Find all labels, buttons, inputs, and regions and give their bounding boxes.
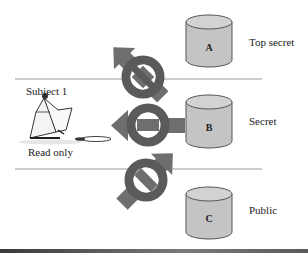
object-cylinder-b: B: [186, 95, 232, 148]
object-label-c: C: [205, 213, 212, 224]
object-cylinder-c: C: [186, 187, 232, 239]
bottom-border: [0, 249, 308, 253]
subject-mode: Read only: [28, 146, 73, 158]
object-label-b: B: [206, 122, 213, 133]
level-label-secret: Secret: [249, 115, 276, 127]
object-cylinder-a: A: [186, 15, 232, 67]
subject-reader-icon: [18, 93, 111, 145]
level-label-public: Public: [249, 204, 277, 216]
read-allowed-public: [111, 143, 183, 215]
subject-name: Subject 1: [26, 85, 67, 97]
arrow-head-icon: [111, 110, 128, 141]
level-label-top-secret: Top secret: [249, 36, 294, 48]
read-allowed-secret: [111, 108, 185, 142]
read-denied-top-secret: [103, 37, 174, 108]
object-label-a: A: [205, 42, 213, 53]
